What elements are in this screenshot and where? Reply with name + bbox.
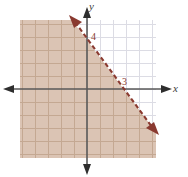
x-intercept-label: 3: [122, 77, 127, 87]
inequality-graph-figure: x y 4 3: [0, 0, 188, 177]
y-axis-label: y: [89, 1, 94, 12]
coordinate-plane: [0, 0, 188, 177]
y-intercept-label: 4: [91, 32, 96, 42]
x-axis-label: x: [173, 83, 178, 94]
